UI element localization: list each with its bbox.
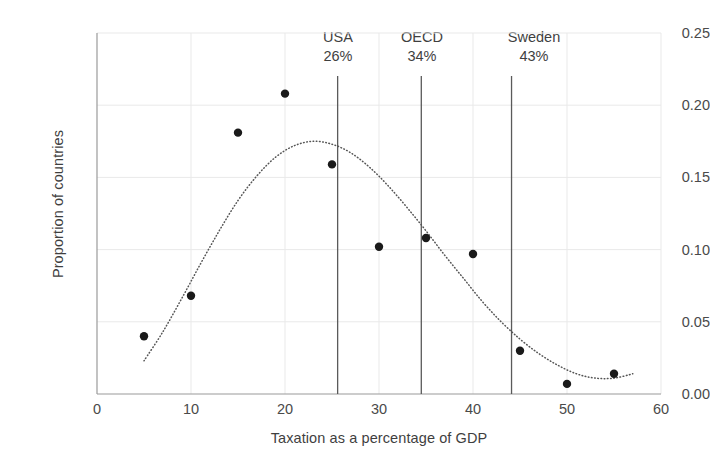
chart-figure: Proportion of countries 0.25 0.20 0.15 0… — [0, 0, 710, 463]
plot-area — [0, 0, 710, 463]
gridlines — [97, 33, 661, 394]
fitted-curve — [144, 141, 633, 378]
